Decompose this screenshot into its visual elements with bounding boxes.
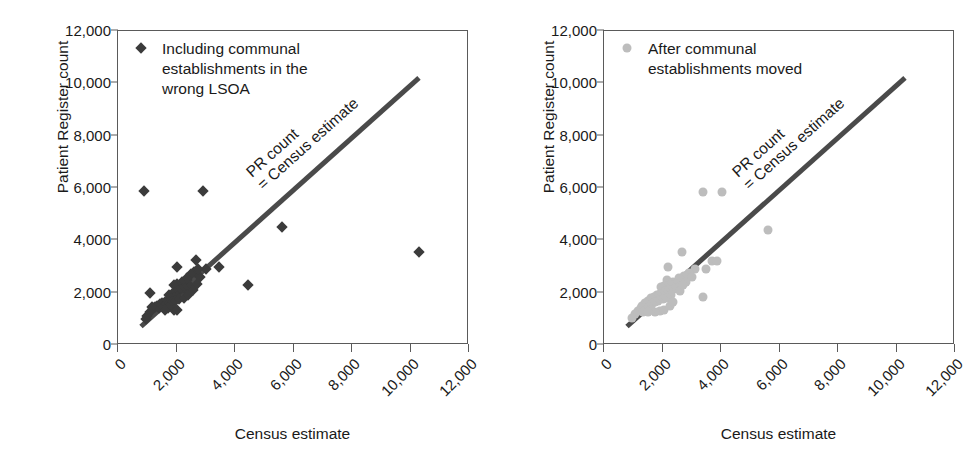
x-tick-mark xyxy=(954,344,955,352)
legend-right: After communal establishments moved xyxy=(614,39,802,79)
x-tick-label: 12,000 xyxy=(424,355,480,411)
data-point xyxy=(763,225,772,234)
data-point xyxy=(197,185,208,196)
panel-after-communal-establishments-moved: Patient Register count 12,00010,0008,000… xyxy=(486,0,972,459)
x-tick-label: 0 xyxy=(559,355,615,411)
data-point xyxy=(276,222,287,233)
x-tick-label: 2,000 xyxy=(132,355,188,411)
x-tick-label: 6,000 xyxy=(249,355,305,411)
data-point xyxy=(643,308,652,317)
x-tick-label: 4,000 xyxy=(676,355,732,411)
x-tick-mark xyxy=(837,344,838,352)
x-tick-label: 2,000 xyxy=(618,355,674,411)
data-point xyxy=(414,246,425,257)
x-tick-label: 0 xyxy=(73,355,129,411)
data-point xyxy=(687,272,696,281)
x-tick-label: 12,000 xyxy=(910,355,966,411)
x-tick-label: 4,000 xyxy=(190,355,246,411)
x-tick-label: 8,000 xyxy=(307,355,363,411)
x-tick-mark xyxy=(117,344,118,352)
data-point xyxy=(171,261,182,272)
x-tick-mark xyxy=(410,344,411,352)
x-tick-mark xyxy=(293,344,294,352)
x-tick-label: 10,000 xyxy=(852,355,908,411)
x-tick-mark xyxy=(468,344,469,352)
data-point xyxy=(664,263,673,272)
x-tick-label: 8,000 xyxy=(793,355,849,411)
x-tick-mark xyxy=(896,344,897,352)
x-axis-title-left: Census estimate xyxy=(117,425,468,443)
data-point xyxy=(242,279,253,290)
scatter-figure-pair: Patient Register count 12,00010,0008,000… xyxy=(0,0,972,459)
x-tick-mark xyxy=(351,344,352,352)
data-point xyxy=(145,287,156,298)
x-tick-mark xyxy=(662,344,663,352)
x-tick-labels-right: 02,0004,0006,0008,00010,00012,000 xyxy=(603,355,954,435)
legend-marker-box-left xyxy=(128,39,162,58)
panel-including-communal-establishments: Patient Register count 12,00010,0008,000… xyxy=(0,0,486,459)
diamond-marker-icon xyxy=(135,42,146,53)
x-tick-mark xyxy=(720,344,721,352)
x-tick-label: 10,000 xyxy=(366,355,422,411)
circle-marker-icon xyxy=(623,44,632,53)
data-point xyxy=(668,297,677,306)
data-point xyxy=(712,257,721,266)
x-tick-mark xyxy=(234,344,235,352)
legend-label-left: Including communal establishments in the… xyxy=(162,39,308,98)
data-point xyxy=(678,280,687,289)
data-point xyxy=(677,248,686,257)
legend-label-right: After communal establishments moved xyxy=(648,39,802,79)
x-tick-mark xyxy=(603,344,604,352)
x-tick-labels-left: 02,0004,0006,0008,00010,00012,000 xyxy=(117,355,468,435)
data-point xyxy=(699,187,708,196)
data-point xyxy=(139,185,150,196)
data-point xyxy=(702,265,711,274)
data-point xyxy=(718,187,727,196)
x-tick-mark xyxy=(176,344,177,352)
x-axis-title-right: Census estimate xyxy=(603,425,954,443)
data-point xyxy=(699,292,708,301)
plot-area-right: PR count = Census estimate After communa… xyxy=(603,30,954,344)
x-tick-label: 6,000 xyxy=(735,355,791,411)
y-tick-marks-left xyxy=(0,30,120,344)
legend-left: Including communal establishments in the… xyxy=(128,39,308,98)
data-point xyxy=(627,313,636,322)
legend-marker-box-right xyxy=(614,39,648,58)
y-tick-marks-right xyxy=(486,30,606,344)
plot-area-left: PR count = Census estimate Including com… xyxy=(117,30,468,344)
x-tick-mark xyxy=(779,344,780,352)
